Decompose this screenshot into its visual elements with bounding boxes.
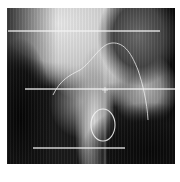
arch-outline <box>53 43 148 120</box>
oval-contour <box>91 109 115 141</box>
cross-marker <box>102 87 108 93</box>
annotation-overlay <box>0 0 180 182</box>
